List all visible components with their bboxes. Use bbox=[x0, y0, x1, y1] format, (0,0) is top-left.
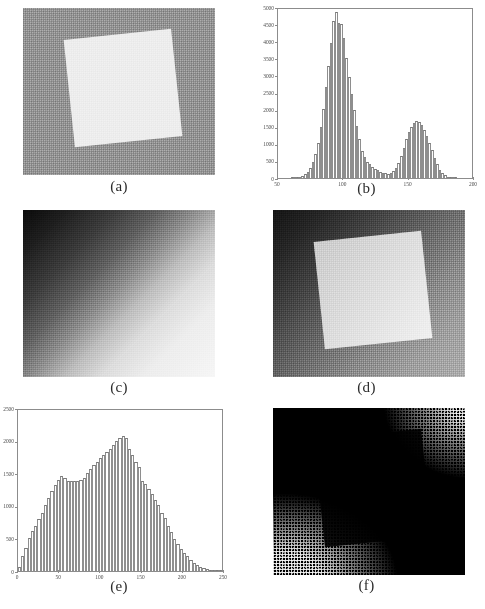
y-tick-mark bbox=[15, 442, 18, 443]
y-tick-mark bbox=[275, 162, 278, 163]
panel-b-plot-area bbox=[277, 8, 473, 179]
panel-b: 0500100015002000250030003500400045005000… bbox=[248, 0, 485, 200]
y-tick-label: 2500 bbox=[249, 90, 274, 96]
x-tick-mark bbox=[58, 570, 59, 573]
panel-e-caption: (e) bbox=[0, 578, 238, 595]
panel-a-image bbox=[23, 8, 215, 175]
histogram-bar bbox=[454, 177, 457, 178]
panel-a-noise bbox=[23, 8, 215, 175]
x-tick-mark bbox=[182, 570, 183, 573]
y-tick-mark bbox=[275, 59, 278, 60]
y-tick-label: 2000 bbox=[0, 438, 14, 444]
panel-f-square-edge bbox=[314, 429, 433, 548]
histogram-bar bbox=[219, 570, 222, 571]
panel-c-image bbox=[23, 210, 215, 377]
y-tick-mark bbox=[275, 128, 278, 129]
panel-e-bars bbox=[18, 410, 222, 571]
y-tick-label: 4000 bbox=[249, 39, 274, 45]
y-tick-label: 5000 bbox=[249, 5, 274, 11]
y-tick-mark bbox=[275, 25, 278, 26]
panel-b-bars bbox=[278, 9, 472, 178]
panel-e-plot-area bbox=[17, 409, 223, 572]
x-tick-mark bbox=[17, 570, 18, 573]
y-tick-label: 1500 bbox=[0, 471, 14, 477]
y-tick-mark bbox=[275, 111, 278, 112]
y-tick-mark bbox=[275, 8, 278, 9]
panel-d-image bbox=[273, 210, 465, 377]
y-tick-label: 1000 bbox=[0, 503, 14, 509]
figure-panel-grid: (a) 050010001500200025003000350040004500… bbox=[0, 0, 485, 609]
y-tick-label: 3500 bbox=[249, 56, 274, 62]
y-tick-mark bbox=[15, 539, 18, 540]
panel-f-image bbox=[273, 408, 465, 575]
panel-c-noise bbox=[23, 210, 215, 377]
y-tick-mark bbox=[275, 94, 278, 95]
y-tick-label: 500 bbox=[0, 536, 14, 542]
panel-f-caption: (f) bbox=[248, 577, 485, 594]
panel-e: 05001000150020002500 050100150200250 (e) bbox=[0, 400, 238, 609]
panel-d-caption: (d) bbox=[248, 379, 485, 396]
panel-a-caption: (a) bbox=[0, 178, 238, 195]
x-tick-mark bbox=[223, 570, 224, 573]
y-tick-mark bbox=[15, 507, 18, 508]
y-tick-label: 2000 bbox=[249, 107, 274, 113]
y-tick-mark bbox=[275, 76, 278, 77]
y-tick-mark bbox=[15, 474, 18, 475]
y-tick-label: 3000 bbox=[249, 73, 274, 79]
y-tick-mark bbox=[275, 42, 278, 43]
panel-b-caption: (b) bbox=[248, 180, 485, 197]
y-tick-mark bbox=[15, 409, 18, 410]
panel-c-caption: (c) bbox=[0, 379, 238, 396]
x-tick-mark bbox=[141, 570, 142, 573]
y-tick-label: 4500 bbox=[249, 22, 274, 28]
y-tick-label: 1500 bbox=[249, 124, 274, 130]
y-tick-label: 500 bbox=[249, 158, 274, 164]
y-tick-label: 1000 bbox=[249, 141, 274, 147]
x-tick-mark bbox=[99, 570, 100, 573]
panel-d-noise bbox=[273, 210, 465, 377]
y-tick-label: 2500 bbox=[0, 406, 14, 412]
y-tick-mark bbox=[275, 145, 278, 146]
